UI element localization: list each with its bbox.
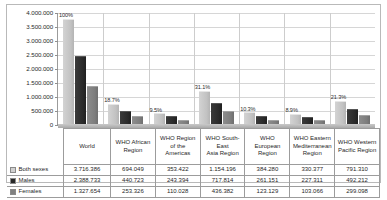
bar-group: 100% [58,13,103,124]
bar-females [132,116,143,124]
legend-item-females: Females [7,187,64,198]
table-cell: 440.723 [111,176,156,187]
y-axis-tick-label: 2.500.000 [26,52,53,58]
table-cell: 3.716.386 [64,165,111,176]
bar-both-sexes [290,114,301,124]
table-column-header: WHO AfricanRegion [111,129,156,165]
bar-males [302,117,313,124]
table-cell: 103.066 [290,187,335,198]
legend-item-both-sexes: Both sexes [7,165,64,176]
y-axis-tick-label: 1.000.000 [26,94,53,100]
bar-males [166,116,177,124]
bar-males [75,56,86,124]
table-column-header: WHO EasternMediterraneanRegion [290,129,335,165]
plot-area: 100%18.7%9.5%31.1%10.3%8.9%21.3% [57,13,375,125]
bar-males [211,103,222,124]
table-cell: 253.326 [111,187,156,198]
bar-group: 18.7% [103,13,148,124]
y-axis-tick-label: 2.000.000 [26,66,53,72]
table-cell: 330.377 [290,165,335,176]
bar-percentage-label: 9.5% [150,108,162,114]
bar-percentage-label: 31.1% [195,85,210,91]
bar-percentage-label: 100% [59,13,73,19]
table-row: Females1.327.654253.326110.028436.382123… [7,187,380,198]
chart-plot-region: 0500.0001.000.0001.500.0002.000.0002.500… [7,5,380,128]
table-cell: 123.129 [245,187,290,198]
bar-group: 21.3% [330,13,375,124]
bar-percentage-label: 21.3% [331,95,346,101]
legend-label: Males [19,177,35,185]
bar-group: 8.9% [284,13,329,124]
bar-percentage-label: 18.7% [104,98,119,104]
bar-both-sexes [63,19,74,124]
bar-males [347,109,358,124]
table-cell: 110.028 [155,187,200,198]
legend-label: Females [19,188,42,196]
bar-females [223,111,234,124]
table-column-header: WHO EuropeanRegion [245,129,290,165]
table-row: Males2.388.733440.723243.394717.814261.1… [7,176,380,187]
table-cell: 492.212 [335,176,380,187]
bar-group: 9.5% [149,13,194,124]
bar-group: 31.1% [194,13,239,124]
bar-females [359,115,370,124]
table-column-header: WHO Regionof theAmericas [155,129,200,165]
bar-percentage-label: 10.3% [240,107,255,113]
y-axis-tick-label: 3.500.000 [26,24,53,30]
bar-males [256,116,267,124]
table-cell: 791.310 [335,165,380,176]
table-corner-cell [7,129,64,165]
table-cell: 384.280 [245,165,290,176]
table-cell: 694.049 [111,165,156,176]
table-cell: 436.382 [200,187,245,198]
bar-percentage-label: 8.9% [285,108,297,114]
y-axis-tick-label: 1.500.000 [26,80,53,86]
table-column-header: WHO South-EastAsia Region [200,129,245,165]
bar-both-sexes [199,91,210,124]
y-axis-tick-label: 4.000.000 [26,10,53,16]
legend-swatch-icon [10,167,16,173]
legend-swatch-icon [10,189,16,195]
legend-swatch-icon [10,178,16,184]
legend-label: Both sexes [19,166,49,174]
table-column-header: WHO WesternPacific Region [335,129,380,165]
table-header-row: WorldWHO AfricanRegionWHO Regionof theAm… [7,129,380,165]
table-cell: 717.814 [200,176,245,187]
bar-chart-with-data-table: 0500.0001.000.0001.500.0002.000.0002.500… [6,4,381,183]
legend-item-males: Males [7,176,64,187]
y-axis-tick-label: 3.000.000 [26,38,53,44]
bar-both-sexes [108,104,119,124]
bar-females [87,86,98,124]
table-row: Both sexes3.716.386694.049353.4221.154.1… [7,165,380,176]
bar-both-sexes [335,101,346,124]
bar-groups: 100%18.7%9.5%31.1%10.3%8.9%21.3% [58,13,375,124]
y-axis: 0500.0001.000.0001.500.0002.000.0002.500… [7,13,55,125]
table-cell: 261.151 [245,176,290,187]
y-axis-tick-label: 500.000 [31,108,53,114]
bar-both-sexes [154,113,165,124]
chart-data-table: WorldWHO AfricanRegionWHO Regionof theAm… [7,128,380,198]
table-cell: 1.154.196 [200,165,245,176]
bar-males [120,111,131,124]
table-cell: 353.422 [155,165,200,176]
table-column-header: World [64,129,111,165]
table-cell: 2.388.733 [64,176,111,187]
table-cell: 227.311 [290,176,335,187]
bar-group: 10.3% [239,13,284,124]
table-cell: 243.394 [155,176,200,187]
table-cell: 299.098 [335,187,380,198]
bar-both-sexes [244,112,255,124]
table-cell: 1.327.654 [64,187,111,198]
